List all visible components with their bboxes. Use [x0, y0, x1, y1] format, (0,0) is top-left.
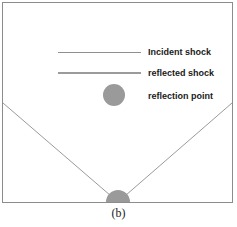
legend: Incident shock reflected shock reflectio… [58, 42, 230, 110]
legend-item-incident-shock: Incident shock [58, 42, 230, 63]
figure-panel-b: Incident shock reflected shock reflectio… [0, 0, 237, 227]
legend-label-reflection-point: reflection point [148, 87, 213, 106]
figure-caption: (b) [0, 206, 237, 221]
legend-item-reflection-point: reflection point [58, 84, 230, 110]
reflection-point-circle-icon [103, 84, 125, 106]
legend-item-reflected-shock: reflected shock [58, 63, 230, 84]
incident-shock-line-icon [58, 52, 141, 53]
reflected-shock-line-icon [58, 72, 141, 74]
legend-label-incident-shock: Incident shock [148, 43, 211, 62]
legend-label-reflected-shock: reflected shock [148, 64, 214, 83]
